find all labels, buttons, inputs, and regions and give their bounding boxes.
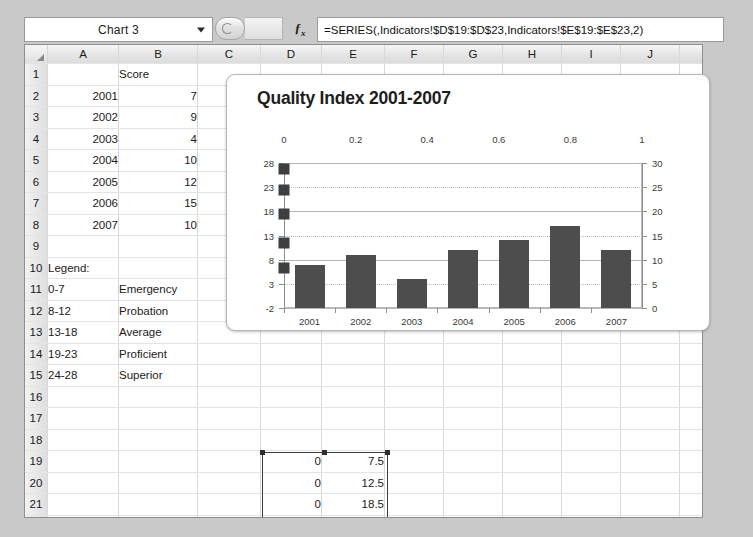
chart-bar[interactable] — [295, 265, 325, 309]
cell-B3[interactable]: 9 — [119, 107, 198, 129]
cell-D15[interactable] — [261, 365, 322, 387]
cell-A17[interactable] — [48, 408, 119, 430]
cell-B4[interactable]: 4 — [119, 128, 198, 150]
cell-A8[interactable]: 2007 — [48, 214, 119, 236]
cell-B22[interactable] — [119, 515, 198, 518]
cell-G18[interactable] — [444, 429, 503, 451]
cell-B12[interactable]: Probation — [119, 300, 198, 322]
cell-I16[interactable] — [562, 386, 621, 408]
cell-H19[interactable] — [503, 451, 562, 473]
insert-function-icon[interactable]: ƒx — [283, 17, 317, 40]
cell-A13[interactable]: 13-18 — [48, 322, 119, 344]
column-header-b[interactable]: B — [119, 45, 198, 64]
scatter-marker[interactable] — [279, 163, 290, 174]
chart-bar[interactable] — [499, 240, 529, 308]
cell-H14[interactable] — [503, 343, 562, 365]
cell-C17[interactable] — [198, 408, 261, 430]
row-header-19[interactable]: 19 — [25, 451, 48, 473]
cell-A16[interactable] — [48, 386, 119, 408]
row-header-9[interactable]: 9 — [25, 236, 48, 258]
cell-A15[interactable]: 24-28 — [48, 365, 119, 387]
cell-B5[interactable]: 10 — [119, 150, 198, 172]
cell-A7[interactable]: 2006 — [48, 193, 119, 215]
cell-C20[interactable] — [198, 472, 261, 494]
cell-B15[interactable]: Superior — [119, 365, 198, 387]
cell-J19[interactable] — [621, 451, 680, 473]
chart-bar[interactable] — [550, 226, 580, 308]
row-header-2[interactable]: 2 — [25, 85, 48, 107]
cell-I17[interactable] — [562, 408, 621, 430]
cell-A22[interactable] — [48, 515, 119, 518]
cell-K22[interactable] — [680, 515, 704, 518]
cell-G22[interactable] — [444, 515, 503, 518]
cell-F21[interactable] — [385, 494, 444, 516]
cell-F14[interactable] — [385, 343, 444, 365]
scatter-marker[interactable] — [279, 185, 290, 196]
cell-J17[interactable] — [621, 408, 680, 430]
cell-F17[interactable] — [385, 408, 444, 430]
cell-A14[interactable]: 19-23 — [48, 343, 119, 365]
cell-C22[interactable] — [198, 515, 261, 518]
cell-D14[interactable] — [261, 343, 322, 365]
cell-B11[interactable]: Emergency — [119, 279, 198, 301]
row-header-15[interactable]: 15 — [25, 365, 48, 387]
cell-F20[interactable] — [385, 472, 444, 494]
formula-input[interactable]: =SERIES(,Indicators!$D$19:$D$23,Indicato… — [317, 17, 724, 42]
cell-B17[interactable] — [119, 408, 198, 430]
name-box[interactable]: Chart 3 — [24, 17, 213, 42]
scatter-marker[interactable] — [279, 262, 290, 273]
column-header-h[interactable]: H — [503, 45, 562, 64]
row-header-12[interactable]: 12 — [25, 300, 48, 322]
cell-A10[interactable]: Legend: — [48, 257, 119, 279]
cell-A3[interactable]: 2002 — [48, 107, 119, 129]
row-header-7[interactable]: 7 — [25, 193, 48, 215]
cell-D19[interactable]: 0 — [261, 451, 322, 473]
cell-G19[interactable] — [444, 451, 503, 473]
column-header-k[interactable]: K — [680, 45, 704, 64]
cell-B14[interactable]: Proficient — [119, 343, 198, 365]
cell-K20[interactable] — [680, 472, 704, 494]
cell-B13[interactable]: Average — [119, 322, 198, 344]
cell-H18[interactable] — [503, 429, 562, 451]
column-header-f[interactable]: F — [385, 45, 444, 64]
cell-G21[interactable] — [444, 494, 503, 516]
cell-B20[interactable] — [119, 472, 198, 494]
cell-A11[interactable]: 0-7 — [48, 279, 119, 301]
cell-B1[interactable]: Score — [119, 64, 198, 86]
cell-A5[interactable]: 2004 — [48, 150, 119, 172]
cell-A12[interactable]: 8-12 — [48, 300, 119, 322]
cell-I21[interactable] — [562, 494, 621, 516]
cell-K19[interactable] — [680, 451, 704, 473]
column-header-d[interactable]: D — [261, 45, 322, 64]
row-header-10[interactable]: 10 — [25, 257, 48, 279]
cell-E19[interactable]: 7.5 — [322, 451, 385, 473]
cell-C19[interactable] — [198, 451, 261, 473]
row-header-14[interactable]: 14 — [25, 343, 48, 365]
cell-E18[interactable] — [322, 429, 385, 451]
cell-I22[interactable] — [562, 515, 621, 518]
cell-D21[interactable]: 0 — [261, 494, 322, 516]
cell-J20[interactable] — [621, 472, 680, 494]
cell-K15[interactable] — [680, 365, 704, 387]
cell-B9[interactable] — [119, 236, 198, 258]
row-header-13[interactable]: 13 — [25, 322, 48, 344]
cell-A1[interactable] — [48, 64, 119, 86]
row-header-20[interactable]: 20 — [25, 472, 48, 494]
cell-C15[interactable] — [198, 365, 261, 387]
chart-bar[interactable] — [397, 279, 427, 308]
row-header-18[interactable]: 18 — [25, 429, 48, 451]
cell-I15[interactable] — [562, 365, 621, 387]
cell-A18[interactable] — [48, 429, 119, 451]
chart-bar[interactable] — [601, 250, 631, 308]
cell-B6[interactable]: 12 — [119, 171, 198, 193]
cell-A19[interactable] — [48, 451, 119, 473]
cell-F19[interactable] — [385, 451, 444, 473]
cell-D18[interactable] — [261, 429, 322, 451]
row-header-1[interactable]: 1 — [25, 64, 48, 86]
cell-I14[interactable] — [562, 343, 621, 365]
cell-D17[interactable] — [261, 408, 322, 430]
cell-E21[interactable]: 18.5 — [322, 494, 385, 516]
cell-B10[interactable] — [119, 257, 198, 279]
cell-B8[interactable]: 10 — [119, 214, 198, 236]
cell-K17[interactable] — [680, 408, 704, 430]
